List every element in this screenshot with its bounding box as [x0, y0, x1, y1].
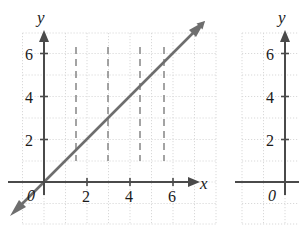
x-tick-label-6: 6 — [168, 188, 176, 205]
origin-label: 0 — [27, 187, 35, 204]
graph-panel-right: y 0 2 4 6 — [230, 0, 299, 225]
coordinate-plane-left: x y 0 2 4 6 2 4 6 — [0, 0, 230, 225]
y-tick-label-4-right: 4 — [266, 89, 274, 106]
y-axis-label-right: y — [276, 8, 286, 27]
y-axis-arrowhead-right — [280, 30, 290, 42]
y-tick-label-6: 6 — [25, 46, 33, 63]
y-axis-arrowhead — [39, 30, 49, 42]
x-axis-label: x — [199, 174, 208, 193]
grid-lines — [23, 33, 217, 225]
y-tick-label-4: 4 — [25, 89, 33, 106]
y-tick-label-2-right: 2 — [266, 132, 274, 149]
y-tick-label-2: 2 — [25, 132, 33, 149]
dashed-annotation-lines — [76, 47, 164, 161]
origin-label-right: 0 — [268, 187, 276, 204]
x-tick-label-4: 4 — [125, 188, 133, 205]
coordinate-plane-right: y 0 2 4 6 — [230, 0, 299, 225]
x-axis-arrowhead — [188, 177, 200, 187]
graph-panel-left: x y 0 2 4 6 2 4 6 — [0, 0, 230, 225]
y-tick-label-6-right: 6 — [266, 46, 274, 63]
x-tick-label-2: 2 — [82, 188, 90, 205]
y-axis-label: y — [35, 8, 45, 27]
math-figure: x y 0 2 4 6 2 4 6 — [0, 0, 299, 225]
